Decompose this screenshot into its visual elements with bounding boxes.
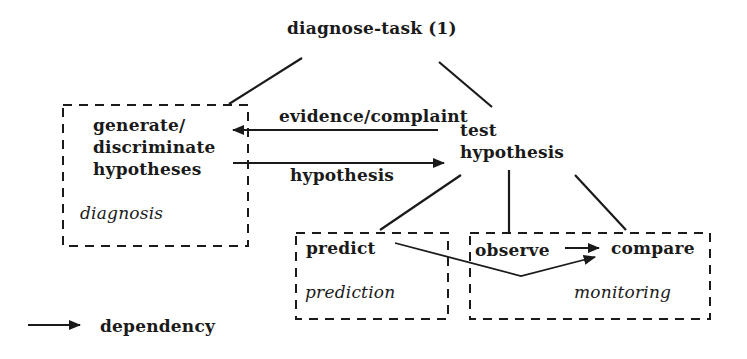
root-to-diagnosis-line bbox=[229, 58, 302, 104]
test-node-line-2: hypothesis bbox=[460, 142, 564, 162]
diagnosis-group-label: diagnosis bbox=[80, 203, 163, 223]
compare-task-label: compare bbox=[611, 238, 695, 258]
diagnosis-task-line-2: discriminate bbox=[93, 137, 216, 157]
root-to-test-line bbox=[439, 62, 492, 107]
prediction-group-label: prediction bbox=[305, 282, 395, 302]
predict-task-label: predict bbox=[306, 238, 376, 258]
root-task-label: diagnose-task (1) bbox=[287, 18, 457, 38]
test-to-compare-line bbox=[575, 175, 626, 230]
diagnosis-task-line-1: generate/ bbox=[93, 115, 186, 135]
hypothesis-edge-label: hypothesis bbox=[290, 165, 394, 185]
monitoring-group-label: monitoring bbox=[574, 282, 671, 302]
test-node-line-1: test bbox=[460, 120, 497, 140]
evidence-edge-label: evidence/complaint bbox=[279, 106, 468, 126]
legend-dependency-label: dependency bbox=[100, 316, 215, 336]
observe-task-label: observe bbox=[475, 240, 550, 260]
diagnosis-task-line-3: hypotheses bbox=[93, 159, 201, 179]
